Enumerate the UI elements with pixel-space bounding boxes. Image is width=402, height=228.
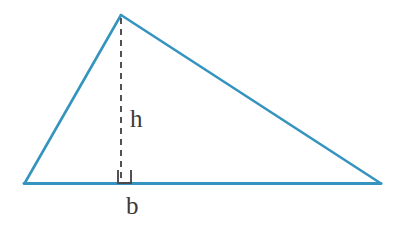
triangle-right-side	[121, 15, 381, 184]
triangle-left-side	[25, 15, 122, 184]
height-label: h	[130, 106, 143, 131]
triangle-figure-svg	[0, 0, 402, 228]
base-label: b	[126, 193, 139, 218]
triangle-diagram: h b	[0, 0, 402, 228]
right-angle-marker-icon	[118, 170, 131, 183]
